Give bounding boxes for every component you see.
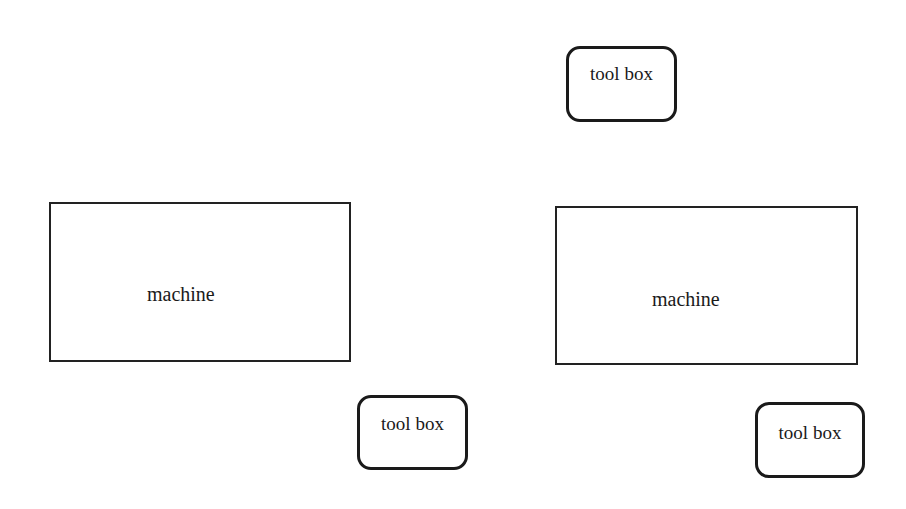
machine-label: machine — [652, 288, 720, 311]
toolbox-label: tool box — [569, 63, 674, 85]
toolbox-label: tool box — [758, 422, 862, 444]
toolbox-bottom-right: tool box — [755, 402, 865, 478]
toolbox-bottom-left: tool box — [357, 395, 468, 470]
machine-label: machine — [147, 283, 215, 306]
machine-left: machine — [49, 202, 351, 362]
toolbox-top: tool box — [566, 46, 677, 122]
machine-right: machine — [555, 206, 858, 365]
toolbox-label: tool box — [360, 413, 465, 435]
